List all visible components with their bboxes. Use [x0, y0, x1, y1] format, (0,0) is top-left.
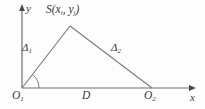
- apex-close-paren: ): [76, 3, 80, 15]
- delta1-subscript: 1: [28, 47, 31, 54]
- diagram-canvas: [0, 0, 205, 109]
- side-label-delta1: Δ1: [22, 42, 32, 54]
- x-axis-label: x: [190, 92, 195, 103]
- triangle-side-delta1: [22, 26, 70, 88]
- o2-subscript: 2: [152, 95, 156, 103]
- triangle-side-delta2: [70, 26, 152, 88]
- y-axis-arrowhead-icon: [19, 4, 25, 11]
- y-axis-label: y: [26, 3, 31, 14]
- angle-arc: [33, 75, 40, 88]
- vertex-label-o2: O2: [144, 90, 156, 103]
- apex-point-label: S(xi, yj): [46, 4, 79, 17]
- geometry-figure: y x S(xi, yj) Δ1 Δ2 D O1 O2: [0, 0, 205, 109]
- x-axis: [22, 85, 196, 91]
- side-label-delta2: Δ2: [111, 42, 121, 54]
- delta2-subscript: 2: [117, 47, 120, 54]
- base-label-d: D: [82, 90, 90, 102]
- vertex-label-o1: O1: [12, 90, 24, 103]
- o1-subscript: 1: [20, 95, 24, 103]
